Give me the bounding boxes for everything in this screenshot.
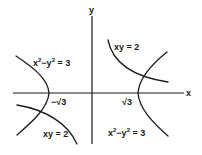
label-top-left-diff: x2−y2 = 3 (33, 57, 70, 68)
label-top-right-prod: xy = 2 (114, 42, 139, 52)
pos-sqrt3-label: √3 (122, 97, 132, 107)
hyperbolas-diagram: x y −√3 √3 x2−y2 = 3 xy = 2 xy = 2 x2−y2… (0, 0, 202, 155)
label-bottom-left-prod: xy = 2 (43, 129, 68, 139)
x-axis-label: x (186, 88, 191, 98)
label-bottom-right-diff: x2−y2 = 3 (108, 127, 145, 138)
hyperbola-diff-right-branch (138, 52, 168, 136)
y-axis-label: y (89, 5, 94, 15)
neg-sqrt3-label: −√3 (51, 97, 66, 107)
